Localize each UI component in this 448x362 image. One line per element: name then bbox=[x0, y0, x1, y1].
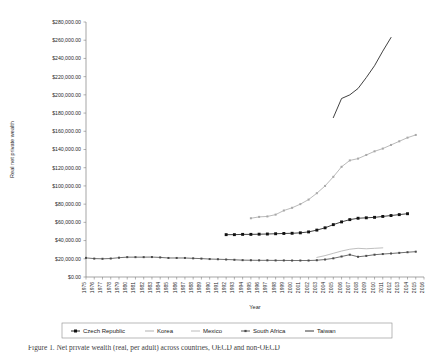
data-point-marker bbox=[308, 260, 310, 262]
data-point-marker bbox=[250, 259, 252, 261]
data-point-marker bbox=[282, 232, 285, 235]
data-point-marker bbox=[242, 259, 244, 261]
data-point-marker bbox=[225, 259, 227, 261]
x-tick-label: 2006 bbox=[337, 282, 343, 293]
x-tick-label: 2007 bbox=[345, 282, 351, 293]
data-point-marker bbox=[167, 257, 169, 259]
x-tick-label: 1976 bbox=[89, 282, 95, 293]
data-point-marker bbox=[382, 148, 384, 150]
y-tick-label: $280,000.00 bbox=[52, 19, 81, 25]
legend-label: Korea bbox=[157, 328, 174, 334]
data-point-marker bbox=[249, 233, 252, 236]
x-tick-label: 1975 bbox=[81, 282, 87, 293]
y-tick-label: $180,000.00 bbox=[52, 110, 81, 116]
x-tick-label: 2014 bbox=[403, 282, 409, 293]
legend-swatch-marker bbox=[244, 330, 246, 332]
data-point-marker bbox=[308, 199, 310, 201]
data-point-marker bbox=[275, 214, 277, 216]
data-point-marker bbox=[217, 258, 219, 260]
y-tick-label: $220,000.00 bbox=[52, 74, 81, 80]
x-tick-label: 2004 bbox=[320, 282, 326, 293]
data-point-marker bbox=[415, 134, 417, 136]
x-tick-label: 1985 bbox=[163, 282, 169, 293]
data-point-marker bbox=[307, 230, 310, 233]
data-point-marker bbox=[324, 185, 326, 187]
x-tick-label: 1987 bbox=[180, 282, 186, 293]
data-point-marker bbox=[348, 218, 351, 221]
y-tick-label: $160,000.00 bbox=[52, 128, 81, 134]
data-point-marker bbox=[258, 216, 260, 218]
data-point-marker bbox=[250, 217, 252, 219]
data-point-marker bbox=[357, 158, 359, 160]
data-point-marker bbox=[349, 159, 351, 161]
data-point-marker bbox=[390, 214, 393, 217]
x-tick-label: 2002 bbox=[304, 282, 310, 293]
legend-item-south-africa[interactable]: South Africa bbox=[241, 328, 286, 334]
data-point-marker bbox=[110, 258, 112, 260]
data-point-marker bbox=[332, 257, 334, 259]
data-point-marker bbox=[209, 258, 211, 260]
x-tick-label: 1984 bbox=[155, 282, 161, 293]
data-point-marker bbox=[316, 192, 318, 194]
series-mexico bbox=[317, 248, 383, 258]
x-tick-label: 1989 bbox=[196, 282, 202, 293]
series-czech-republic bbox=[225, 212, 409, 236]
x-tick-label: 2013 bbox=[394, 282, 400, 293]
legend-item-mexico[interactable]: Mexico bbox=[191, 328, 223, 334]
x-tick-label: 1995 bbox=[246, 282, 252, 293]
data-point-marker bbox=[374, 150, 376, 152]
legend-item-czech-republic[interactable]: Czech Republic bbox=[71, 328, 125, 334]
data-point-marker bbox=[398, 213, 401, 216]
x-tick-label: 1994 bbox=[238, 282, 244, 293]
data-point-marker bbox=[340, 220, 343, 223]
y-tick-label: $0.00 bbox=[68, 274, 81, 280]
y-tick-label: $240,000.00 bbox=[52, 55, 81, 61]
x-tick-label: 1977 bbox=[97, 282, 103, 293]
data-point-marker bbox=[390, 253, 392, 255]
data-point-marker bbox=[299, 203, 301, 205]
y-tick-label: $40,000.00 bbox=[55, 237, 81, 243]
x-tick-label: 1991 bbox=[213, 282, 219, 293]
x-tick-label: 1982 bbox=[139, 282, 145, 293]
x-tick-label: 1993 bbox=[229, 282, 235, 293]
x-tick-label: 2009 bbox=[361, 282, 367, 293]
legend-item-korea[interactable]: Korea bbox=[145, 328, 174, 334]
figure-caption-band: Figure 1. Net private wealth (real, per … bbox=[0, 345, 448, 362]
x-tick-label: 1979 bbox=[114, 282, 120, 293]
legend-item-taiwan[interactable]: Taiwan bbox=[305, 328, 336, 334]
series-south-africa bbox=[85, 251, 417, 262]
y-tick-label: $200,000.00 bbox=[52, 92, 81, 98]
x-tick-label: 1998 bbox=[271, 282, 277, 293]
data-point-marker bbox=[266, 215, 268, 217]
x-tick-label: 1981 bbox=[130, 282, 136, 293]
data-point-marker bbox=[192, 257, 194, 259]
data-point-marker bbox=[85, 257, 87, 259]
data-point-marker bbox=[283, 259, 285, 261]
x-tick-label: 2001 bbox=[295, 282, 301, 293]
x-tick-label: 1978 bbox=[106, 282, 112, 293]
y-tick-label: $140,000.00 bbox=[52, 146, 81, 152]
data-point-marker bbox=[324, 226, 327, 229]
x-tick-label: 2000 bbox=[287, 282, 293, 293]
y-tick-label: $260,000.00 bbox=[52, 37, 81, 43]
x-tick-label: 2012 bbox=[386, 282, 392, 293]
legend-label: South Africa bbox=[253, 328, 286, 334]
legend-label: Taiwan bbox=[317, 328, 336, 334]
x-tick-label: 1999 bbox=[279, 282, 285, 293]
data-point-marker bbox=[365, 154, 367, 156]
data-point-marker bbox=[225, 233, 228, 236]
x-tick-label: 2010 bbox=[370, 282, 376, 293]
data-point-marker bbox=[118, 257, 120, 259]
data-point-marker bbox=[415, 251, 417, 253]
x-tick-label: 1997 bbox=[262, 282, 268, 293]
data-point-marker bbox=[357, 217, 360, 220]
data-point-marker bbox=[151, 256, 153, 258]
data-point-marker bbox=[275, 259, 277, 261]
y-tick-label: $20,000.00 bbox=[55, 256, 81, 262]
series-taiwan bbox=[333, 37, 391, 117]
data-point-marker bbox=[390, 144, 392, 146]
data-point-marker bbox=[341, 256, 343, 258]
figure-caption: Figure 1. Net private wealth (real, per … bbox=[28, 345, 280, 352]
y-tick-label: $80,000.00 bbox=[55, 201, 81, 207]
data-point-marker bbox=[381, 215, 384, 218]
